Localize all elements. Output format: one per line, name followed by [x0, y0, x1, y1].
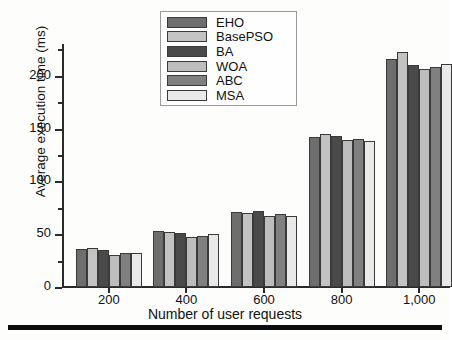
bar-eho-800	[309, 137, 320, 287]
y-axis-title: Average execution time (ms)	[33, 12, 48, 212]
bar-ba-600	[253, 211, 264, 287]
y-tick-mark-0	[55, 287, 62, 289]
bar-group-400	[153, 44, 219, 287]
page-bottom-rule	[8, 325, 442, 330]
bar-ba-400	[175, 233, 186, 287]
bar-ba-1000	[408, 65, 419, 287]
bar-woa-800	[342, 140, 353, 287]
bar-eho-1000	[386, 59, 397, 287]
y-tick-label-50: 50	[37, 225, 51, 240]
y-tick-label-0: 0	[44, 278, 51, 293]
bar-msa-600	[286, 216, 297, 287]
x-axis-title: Number ofuser requests	[0, 306, 450, 322]
bar-group-200	[76, 44, 142, 287]
bar-abc-600	[275, 214, 286, 287]
y-tick-mark-150	[55, 129, 62, 131]
bar-msa-200	[131, 253, 142, 287]
x-tick-label-600: 600	[253, 292, 275, 307]
bar-abc-200	[120, 253, 131, 287]
bar-group-1000	[386, 44, 452, 287]
bar-msa-1000	[441, 64, 452, 287]
bar-woa-200	[109, 255, 120, 287]
bar-msa-400	[208, 234, 219, 287]
y-tick-mark-200	[55, 76, 62, 78]
bar-group-600	[231, 44, 297, 287]
bar-ba-200	[98, 250, 109, 287]
legend-label-basepso: BasePSO	[216, 30, 273, 43]
x-axis-title-part2: user requests	[217, 306, 302, 322]
bar-eho-400	[153, 231, 164, 287]
bar-woa-600	[264, 216, 275, 287]
bar-woa-1000	[419, 69, 430, 287]
legend-item-basepso[interactable]: BasePSO	[167, 30, 292, 45]
x-tick-label-400: 400	[176, 292, 198, 307]
legend-item-eho[interactable]: EHO	[167, 15, 292, 30]
bars-layer	[62, 44, 450, 287]
bar-abc-1000	[430, 67, 441, 287]
legend-swatch-basepso	[167, 31, 207, 42]
x-tick-label-800: 800	[331, 292, 353, 307]
bar-woa-400	[186, 237, 197, 287]
legend-label-eho: EHO	[216, 16, 244, 29]
x-tick-label-200: 200	[98, 292, 120, 307]
bar-ba-800	[331, 136, 342, 287]
bar-basepso-200	[87, 248, 98, 287]
legend-swatch-eho	[167, 17, 207, 28]
bar-basepso-800	[320, 134, 331, 287]
bar-basepso-600	[242, 213, 253, 287]
bar-eho-200	[76, 249, 87, 287]
y-tick-mark-50	[55, 234, 62, 236]
bar-basepso-1000	[397, 52, 408, 287]
bar-eho-600	[231, 212, 242, 287]
bar-msa-800	[364, 141, 375, 287]
bar-abc-400	[197, 236, 208, 287]
bar-basepso-400	[164, 232, 175, 287]
y-tick-mark-100	[55, 181, 62, 183]
x-tick-label-1000: 1,000	[403, 292, 436, 307]
bar-abc-800	[353, 139, 364, 287]
bar-group-800	[309, 44, 375, 287]
x-axis-title-part1: Number of	[148, 306, 213, 322]
